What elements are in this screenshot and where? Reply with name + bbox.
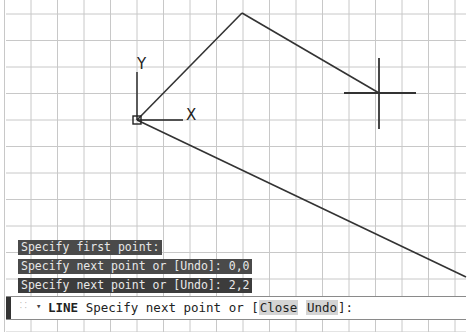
line-segment-2 — [242, 13, 379, 93]
command-prompt[interactable]: LINE Specify next point or [Close Undo]: — [48, 300, 353, 315]
ucs-x-label: X — [186, 106, 196, 124]
recent-commands-dropdown-icon[interactable]: ▾ — [36, 301, 41, 311]
customize-icon[interactable]: ⸬ — [20, 299, 27, 310]
command-line[interactable]: ⸬ ▾ LINE Specify next point or [Close Un… — [6, 296, 466, 320]
ucs-y-label: Y — [136, 55, 147, 73]
command-history-line: Specify next point or [Undo]: 0,0 — [18, 259, 252, 274]
command-history-line: Specify next point or [Undo]: 2,2 — [18, 278, 252, 293]
prompt-text: Specify next point or [ — [86, 300, 259, 315]
prompt-suffix: ]: — [338, 300, 353, 315]
command-history-line: Specify first point: — [18, 240, 162, 255]
line-segment-3 — [137, 120, 466, 277]
option-undo[interactable]: Undo — [306, 300, 338, 315]
drawn-lines — [137, 13, 466, 277]
option-close[interactable]: Close — [259, 300, 299, 315]
crosshair-cursor — [344, 58, 416, 129]
active-command: LINE — [48, 300, 78, 315]
command-line-grip-handle[interactable] — [6, 297, 11, 319]
